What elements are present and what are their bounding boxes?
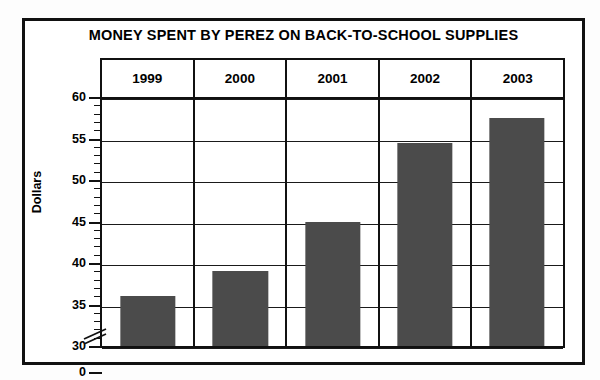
bar-2003 xyxy=(489,118,544,346)
year-header-1999: 1999 xyxy=(102,60,195,97)
plot-area: 19992000200120022003 xyxy=(100,58,565,348)
bar-2000 xyxy=(213,271,268,346)
y-tick-label-35: 35 xyxy=(72,298,86,312)
bar-2001 xyxy=(305,222,360,347)
plot-body xyxy=(102,99,563,346)
y-tick-label-50: 50 xyxy=(72,173,86,187)
y-tick-label-40: 40 xyxy=(72,256,86,270)
y-tick-label-60: 60 xyxy=(72,90,86,104)
bar-slot-1999 xyxy=(102,99,194,346)
bar-group xyxy=(102,99,563,346)
y-tick-label-0: 0 xyxy=(79,365,86,379)
chart-title: MONEY SPENT BY PEREZ ON BACK-TO-SCHOOL S… xyxy=(22,27,585,43)
y-tick-label-55: 55 xyxy=(72,132,86,146)
bar-slot-2000 xyxy=(194,99,286,346)
chart-screenshot: MONEY SPENT BY PEREZ ON BACK-TO-SCHOOL S… xyxy=(0,0,600,380)
year-header-row: 19992000200120022003 xyxy=(102,60,563,99)
bar-1999 xyxy=(120,296,175,346)
y-tick-label-45: 45 xyxy=(72,215,86,229)
year-header-2000: 2000 xyxy=(195,60,288,97)
y-axis-label: Dollars xyxy=(30,147,44,237)
year-header-2002: 2002 xyxy=(380,60,473,97)
bar-slot-2003 xyxy=(471,99,563,346)
year-header-2001: 2001 xyxy=(287,60,380,97)
bar-slot-2002 xyxy=(379,99,471,346)
bar-slot-2001 xyxy=(286,99,378,346)
bar-2002 xyxy=(397,143,452,346)
y-axis: 605550454035300 xyxy=(58,97,102,351)
y-tick-major-0 xyxy=(89,372,102,374)
year-header-2003: 2003 xyxy=(472,60,563,97)
gridline-30 xyxy=(102,348,563,349)
